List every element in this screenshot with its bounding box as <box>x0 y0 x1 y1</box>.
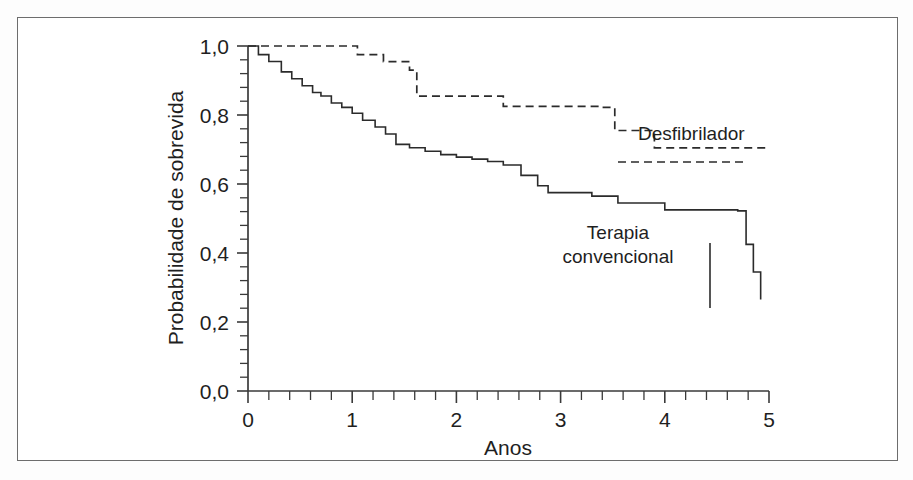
y-axis-title: Probabilidade de sobrevida <box>164 90 187 345</box>
x-axis-tick-labels: 0 1 2 3 4 5 <box>242 408 775 431</box>
y-tick-label-4: 0,4 <box>200 242 230 265</box>
y-axis-minor-ticks <box>240 60 248 377</box>
y-axis-major-ticks <box>237 46 248 391</box>
x-tick-label-1: 1 <box>346 408 358 431</box>
axes-group <box>248 46 769 391</box>
y-tick-label-1: 1,0 <box>200 35 229 58</box>
y-axis-tick-labels: 1,0 0,8 0,6 0,4 0,2 0,0 <box>200 35 230 403</box>
x-axis-title: Anos <box>484 436 532 459</box>
survival-chart: 1,0 0,8 0,6 0,4 0,2 0,0 0 1 2 3 4 5 Anos… <box>18 18 899 462</box>
annotation-terapia-line1: Terapia <box>587 222 650 243</box>
figure-root: 1,0 0,8 0,6 0,4 0,2 0,0 0 1 2 3 4 5 Anos… <box>0 0 913 480</box>
x-axis-major-ticks <box>248 391 769 403</box>
x-tick-label-3: 3 <box>555 408 567 431</box>
x-tick-label-0: 0 <box>242 408 254 431</box>
x-tick-label-2: 2 <box>451 408 463 431</box>
figure-frame: 1,0 0,8 0,6 0,4 0,2 0,0 0 1 2 3 4 5 Anos… <box>17 17 898 461</box>
annotation-desfibrilador: Desfibrilador <box>638 123 745 144</box>
y-tick-label-3: 0,6 <box>200 173 229 196</box>
annotation-terapia-line2: convencional <box>563 246 674 267</box>
y-tick-label-5: 0,2 <box>200 311 229 334</box>
x-tick-label-5: 5 <box>763 408 775 431</box>
y-tick-label-2: 0,8 <box>200 104 229 127</box>
x-axis-minor-ticks <box>269 391 748 400</box>
series-line-terapia-convencional <box>248 46 761 300</box>
y-tick-label-6: 0,0 <box>200 380 229 403</box>
x-tick-label-4: 4 <box>659 408 671 431</box>
